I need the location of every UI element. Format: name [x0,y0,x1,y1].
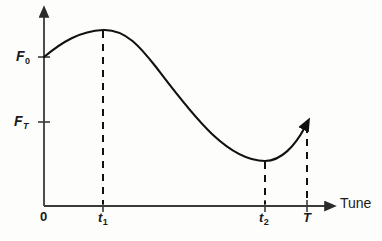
figure-container: F0 FT 0 t1 t2 T Tune [0,0,382,241]
y-tick-label-ft-subscript: T [23,121,29,131]
x-tick-label-t1-subscript: 1 [103,217,108,227]
data-curve [44,30,305,161]
x-tick-label-t2-base: t [259,210,263,225]
plot-svg [0,0,382,241]
x-tick-label-t2-subscript: 2 [264,217,269,227]
y-tick-label-ft-base: F [14,113,23,129]
y-tick-label-f0: F0 [16,49,30,63]
x-tick-label-t1: t1 [98,211,107,224]
x-axis-name: Tune [340,196,371,210]
y-tick-label-ft: FT [14,114,28,128]
x-tick-label-T: T [303,211,311,224]
x-tick-label-t1-base: t [98,210,102,225]
y-tick-label-f0-subscript: 0 [25,56,30,66]
x-tick-label-t2: t2 [259,211,268,224]
y-tick-label-f0-base: F [16,48,25,64]
origin-label: 0 [40,210,47,223]
